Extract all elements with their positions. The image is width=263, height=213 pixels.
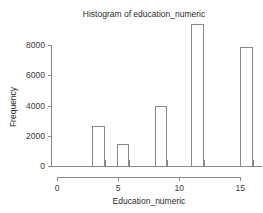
histogram-bar bbox=[93, 127, 104, 166]
histogram-bar bbox=[155, 106, 166, 166]
x-axis-title: Education_numeric bbox=[113, 196, 187, 206]
y-tick-label: 6000 bbox=[26, 70, 45, 80]
y-tick-label: 8000 bbox=[26, 40, 45, 50]
x-tick-label: 5 bbox=[116, 183, 121, 193]
x-tick-label: 10 bbox=[174, 183, 184, 193]
histogram-plot-panel: Histogram of education_numeric 020004000… bbox=[0, 0, 263, 213]
chart-title: Histogram of education_numeric bbox=[83, 9, 206, 19]
x-axis-ticks: 051015 bbox=[55, 178, 246, 194]
histogram-chart: Histogram of education_numeric 020004000… bbox=[0, 0, 263, 213]
x-tick-label: 15 bbox=[236, 183, 246, 193]
x-tick-label: 0 bbox=[55, 183, 60, 193]
bar-series bbox=[93, 25, 253, 167]
y-tick-label: 0 bbox=[40, 161, 45, 171]
y-axis-ticks: 02000400060008000 bbox=[26, 40, 51, 171]
histogram-bar bbox=[117, 144, 128, 166]
y-tick-label: 2000 bbox=[26, 131, 45, 141]
histogram-bar bbox=[241, 48, 252, 166]
y-tick-label: 4000 bbox=[26, 101, 45, 111]
histogram-bar bbox=[192, 25, 203, 166]
y-axis-title: Frequency bbox=[8, 86, 18, 127]
